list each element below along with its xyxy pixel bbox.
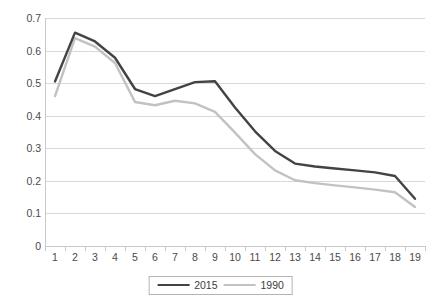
x-tick-label-1: 1	[52, 252, 58, 263]
y-tick-label-0-6: 0.6	[3, 45, 41, 56]
x-tick-mark-4	[125, 246, 126, 251]
x-tick-label-18: 18	[389, 252, 401, 263]
x-tick-label-2: 2	[72, 252, 78, 263]
x-tick-mark-12	[285, 246, 286, 251]
x-tick-label-19: 19	[409, 252, 421, 263]
x-tick-mark-3	[105, 246, 106, 251]
legend-label-2015: 2015	[194, 280, 217, 291]
series-layer	[45, 18, 425, 246]
x-tick-mark-19	[425, 246, 426, 251]
y-tick-label-0-4: 0.4	[3, 110, 41, 121]
x-tick-label-14: 14	[309, 252, 321, 263]
x-tick-mark-9	[225, 246, 226, 251]
x-tick-label-3: 3	[92, 252, 98, 263]
x-tick-mark-2	[85, 246, 86, 251]
x-tick-mark-10	[245, 246, 246, 251]
x-tick-label-7: 7	[172, 252, 178, 263]
x-tick-label-16: 16	[349, 252, 361, 263]
legend-entry-2015[interactable]: 2015	[157, 280, 217, 291]
y-tick-label-0-1: 0.1	[3, 208, 41, 219]
line-chart: 00.10.20.30.40.50.60.7 12345678910111213…	[0, 0, 441, 301]
x-tick-label-15: 15	[329, 252, 341, 263]
x-tick-mark-8	[205, 246, 206, 251]
x-tick-label-17: 17	[369, 252, 381, 263]
x-tick-label-11: 11	[250, 252, 261, 263]
legend-swatch-1990	[224, 284, 256, 287]
x-tick-mark-18	[405, 246, 406, 251]
y-axis-line	[45, 18, 46, 247]
series-line-1990	[55, 38, 415, 207]
x-tick-label-8: 8	[192, 252, 198, 263]
x-tick-mark-6	[165, 246, 166, 251]
x-tick-label-4: 4	[112, 252, 118, 263]
plot-area	[45, 18, 425, 246]
x-tick-label-13: 13	[289, 252, 301, 263]
x-tick-mark-13	[305, 246, 306, 251]
x-tick-label-10: 10	[229, 252, 241, 263]
legend-label-1990: 1990	[261, 280, 284, 291]
x-tick-mark-1	[65, 246, 66, 251]
chart-legend: 2015 1990	[148, 276, 293, 295]
x-tick-mark-5	[145, 246, 146, 251]
y-tick-label-0-5: 0.5	[3, 78, 41, 89]
x-tick-mark-17	[385, 246, 386, 251]
y-tick-label-0-2: 0.2	[3, 176, 41, 187]
x-tick-label-9: 9	[212, 252, 218, 263]
y-tick-label-0-7: 0.7	[3, 13, 41, 24]
x-tick-label-12: 12	[269, 252, 281, 263]
x-tick-label-5: 5	[132, 252, 138, 263]
x-tick-mark-15	[345, 246, 346, 251]
x-tick-mark-7	[185, 246, 186, 251]
y-tick-label-0-3: 0.3	[3, 143, 41, 154]
y-tick-label-0: 0	[3, 241, 41, 252]
x-tick-label-6: 6	[152, 252, 158, 263]
x-tick-mark-11	[265, 246, 266, 251]
legend-swatch-2015	[157, 284, 189, 287]
y-axis-tick-labels: 00.10.20.30.40.50.60.7	[0, 0, 41, 301]
legend-entry-1990[interactable]: 1990	[224, 280, 284, 291]
x-tick-mark-0	[45, 246, 46, 251]
x-tick-mark-16	[365, 246, 366, 251]
x-axis-tick-labels: 12345678910111213141516171819	[45, 252, 425, 270]
x-tick-mark-14	[325, 246, 326, 251]
